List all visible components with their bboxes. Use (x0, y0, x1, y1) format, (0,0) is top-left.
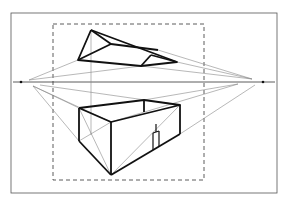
right-vanishing-point (262, 81, 265, 84)
construction-lines (29, 30, 255, 175)
upper-wedge (78, 30, 177, 66)
lower-box (79, 100, 180, 175)
perspective-diagram (0, 0, 287, 200)
left-vanishing-point (20, 81, 23, 84)
